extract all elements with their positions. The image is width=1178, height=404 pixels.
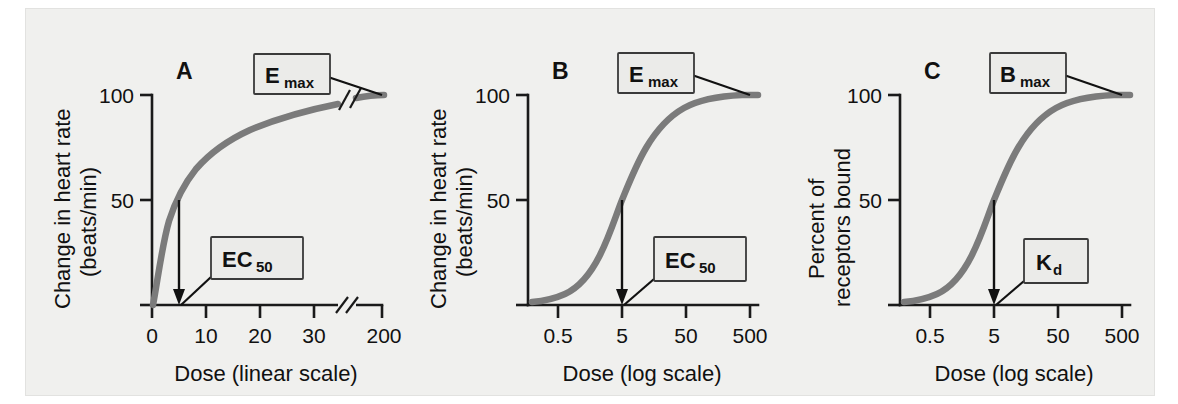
panel-b-xlabel-50: 50 [674,324,697,347]
panel-b-ec50-sub: 50 [699,259,716,276]
panel-b-callout-ec50: EC 50 [616,200,746,305]
panel-a-ec50-sub: 50 [256,258,273,275]
panel-c-ylabel-100: 100 [847,84,882,107]
panel-a-ylabel-100: 100 [99,84,134,107]
panel-b-emax-sub: max [648,73,679,90]
panel-b-xlabel-p5: 0.5 [543,324,572,347]
panel-a-emax-base: E [265,63,280,88]
panel-a-callout-ec50: EC 50 [173,200,303,305]
panel-c-kd-sub: d [1053,261,1062,278]
panel-c-callout-bmax: B max [990,53,1122,95]
panel-a-xaxis-title: Dose (linear scale) [174,361,357,386]
panel-a-xlabel-30: 30 [302,324,325,347]
panel-b-emax-base: E [629,62,644,87]
panel-a-curve-plateau [356,95,384,98]
panel-b-ylabel-line2: (beats/min) [452,167,477,277]
panel-a-ec50-base: EC [222,247,253,272]
panel-b-xaxis-title: Dose (log scale) [563,361,722,386]
panel-a-xlabel-200: 200 [366,324,401,347]
figure-root: A Change in heart rate (beats/min) 50 10… [0,0,1178,404]
panel-c-xlabel-5: 5 [988,324,1000,347]
panel-b: B Change in heart rate (beats/min) 50 10… [402,9,778,395]
panel-b-ylabel-line1: Change in heart rate [426,108,451,309]
panel-c-curve [904,95,1130,302]
panel-c-xlabel-50: 50 [1046,324,1069,347]
panel-a-ylabel-line2: (beats/min) [76,167,101,277]
panel-a-emax-sub: max [284,74,315,91]
panel-c-ylabel-line2: receptors bound [830,148,855,307]
panel-a-ylabel-50: 50 [111,189,134,212]
panel-c-xlabel-500: 500 [1104,324,1139,347]
panel-letter-a: A [176,58,193,84]
panel-b-xlabel-500: 500 [732,324,767,347]
panel-b-xlabel-5: 5 [616,324,628,347]
panel-c-bmax-sub: max [1020,73,1051,90]
panel-c-xaxis-title: Dose (log scale) [935,361,1094,386]
panel-c-bmax-base: B [1000,62,1016,87]
panel-a-x-axis-break [336,297,358,313]
panel-b-callout-emax: E max [618,53,750,95]
panel-c-ylabel-50: 50 [859,189,882,212]
panel-a-xlabel-10: 10 [194,324,217,347]
panel-a: A Change in heart rate (beats/min) 50 10… [26,9,402,395]
panel-b-ec50-base: EC [665,248,696,273]
panel-letter-c: C [924,58,941,84]
panel-a-xlabel-20: 20 [248,324,271,347]
panel-c-ylabel-line1: Percent of [804,178,829,279]
panel-letter-b: B [552,58,569,84]
figure-plate: A Change in heart rate (beats/min) 50 10… [26,9,1154,395]
panel-a-ylabel-line1: Change in heart rate [50,108,75,309]
panel-a-xlabel-0: 0 [146,324,158,347]
panel-c: C Percent of receptors bound 50 100 0.5 … [778,9,1154,395]
panel-b-ylabel-100: 100 [475,84,510,107]
panel-a-callout-emax: E max [254,54,382,95]
panel-c-kd-base: K [1036,250,1052,275]
panel-b-ylabel-50: 50 [487,189,510,212]
panel-c-xlabel-p5: 0.5 [915,324,944,347]
panel-c-callout-kd: K d [988,200,1088,305]
